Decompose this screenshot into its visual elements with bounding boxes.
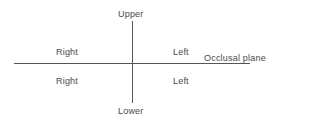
lower-right-quadrant-label: Right — [56, 76, 78, 86]
upper-right-quadrant-label: Right — [56, 47, 78, 57]
upper-left-quadrant-label: Left — [173, 47, 189, 57]
vertical-midline — [132, 21, 133, 103]
occlusal-plane-label: Occlusal plane — [204, 53, 266, 63]
upper-label: Upper — [118, 9, 144, 19]
lower-label: Lower — [118, 106, 144, 116]
lower-left-quadrant-label: Left — [173, 76, 189, 86]
